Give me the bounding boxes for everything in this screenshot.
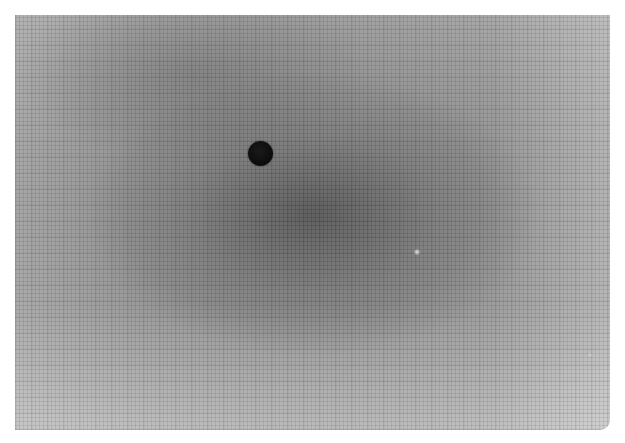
mesh-photograph: [15, 15, 610, 430]
faint-speck: [588, 353, 592, 357]
image-canvas: [0, 0, 625, 443]
bright-speck: [414, 249, 420, 255]
mesh-texture: [15, 15, 610, 430]
dark-dot: [248, 141, 273, 166]
